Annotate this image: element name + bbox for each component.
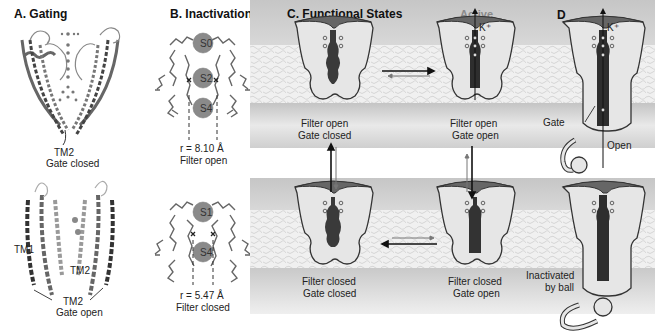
k-ion-label-c: K⁺ <box>479 22 491 34</box>
gate-label: Gate <box>543 117 565 129</box>
inactivated-label-line2: by ball <box>545 282 574 294</box>
open-label: Open <box>607 140 631 152</box>
state-2-line1: Filter open <box>450 118 497 130</box>
state-3-line2: Gate closed <box>303 288 356 300</box>
state-4-line2: Gate open <box>453 288 500 300</box>
state-2-line2: Gate open <box>452 130 499 142</box>
state-4-line1: Filter closed <box>448 276 502 288</box>
state-1-line1: Filter open <box>301 118 348 130</box>
state-1-line2: Gate closed <box>298 130 351 142</box>
k-ion-label-d: K⁺ <box>607 22 619 34</box>
inactivated-label-line1: Inactivated <box>526 270 574 282</box>
state-3-line1: Filter closed <box>302 276 356 288</box>
